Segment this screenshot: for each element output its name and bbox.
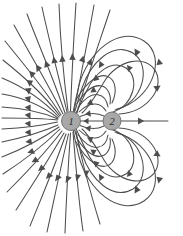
charge-2[interactable]: 2 [103,112,121,130]
arrowhead-icon [156,59,163,66]
arrowhead-icon [83,118,88,124]
arrowhead-icon [99,174,105,181]
arrowhead-icon [135,49,141,57]
arrowhead-icon [75,174,81,181]
arrowhead-icon [153,150,160,156]
arrowhead-icon [29,71,36,78]
fieldline-connecting [80,126,104,129]
charge-2-label: 2 [109,116,115,127]
arrowhead-icon [85,110,91,116]
fieldline-radial [16,133,64,210]
arrowhead-icon [85,125,91,131]
arrowhead-icon [153,86,160,92]
charge-1-label: 1 [68,116,73,127]
arrowhead-icon [66,176,72,183]
arrowhead-icon [59,55,65,62]
arrowhead-icon [25,129,31,136]
arrowhead-icon [25,88,32,95]
arrowhead-icon [25,138,32,145]
arrowhead-icon [99,61,105,68]
arrowhead-icon [138,118,144,125]
field-line-canvas: 1 2 [0,0,183,236]
fieldline-loop [74,128,143,192]
arrowhead-icon [36,65,42,73]
arrowhead-icon [52,57,58,64]
radial-inflow-group [2,3,110,233]
fieldline-connecting [79,104,106,112]
field-line-figure: 1 2 [0,0,183,236]
arrowhead-icon [156,177,163,184]
arrowhead-icon [25,121,31,128]
arrowhead-icon [27,148,35,154]
fieldline-radial [59,4,68,111]
charge-1[interactable]: 1 [62,112,81,131]
arrowhead-icon [135,186,141,194]
fieldline-connecting [80,113,104,116]
fieldline-connecting [79,130,106,138]
fieldline-radial [73,132,83,231]
arrowhead-icon [69,53,75,60]
axis-line-right-group [121,118,168,125]
fieldline-radial [65,133,71,233]
